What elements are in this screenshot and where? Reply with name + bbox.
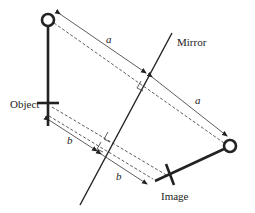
dashed-ray-stem: [49, 116, 153, 179]
mirror-reflection-diagram: Mirror Object Image a a b b: [0, 0, 255, 213]
object-top-circle: [42, 14, 54, 26]
distance-label-a-upper: a: [106, 33, 112, 45]
image-figure: [155, 140, 236, 185]
distance-label-b-upper: b: [67, 134, 73, 146]
distance-label-a-lower: a: [195, 94, 201, 106]
distance-arrow-b-upper: [49, 120, 97, 151]
distance-arrow-b-lower: [101, 154, 147, 184]
distance-arrow-a-upper: [60, 14, 146, 73]
object-label: Object: [10, 98, 39, 110]
image-label: Image: [161, 190, 189, 202]
right-angle-mark-stem: [97, 142, 103, 152]
distance-label-b-lower: b: [116, 170, 122, 182]
mirror-label: Mirror: [177, 36, 207, 48]
object-figure: [37, 14, 59, 126]
image-top-circle: [224, 140, 236, 152]
distance-arrow-a-lower: [152, 77, 227, 136]
